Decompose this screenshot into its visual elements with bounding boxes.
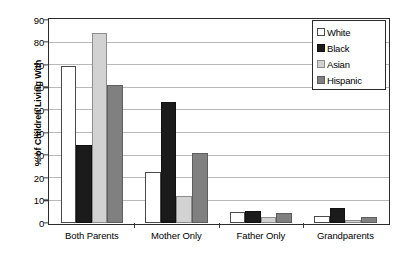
legend-item[interactable]: Black [317,40,385,56]
y-axis-tick-mark [44,155,48,156]
y-axis-tick-mark [44,87,48,88]
legend: WhiteBlackAsianHispanic [312,20,386,90]
legend-item-label: Black [327,43,349,54]
bar-chart: % of Children Living With 01020304050607… [0,0,400,253]
bar[interactable] [230,212,246,223]
y-axis-tick-label: 20 [4,172,44,183]
y-axis-tick-label: 0 [4,218,44,229]
bar[interactable] [161,102,177,223]
y-axis-tick-label: 70 [4,59,44,70]
y-axis-tick-mark [44,222,48,223]
y-axis-tick-label: 30 [4,150,44,161]
y-axis-tick-label: 90 [4,14,44,25]
bar[interactable] [245,211,261,223]
y-axis-tick-mark [44,64,48,65]
bar[interactable] [361,217,377,223]
bar[interactable] [314,216,330,223]
bar-group [230,20,292,223]
bar[interactable] [145,172,161,223]
y-axis-tick-mark [44,132,48,133]
legend-item-label: Asian [327,59,350,70]
bar[interactable] [76,145,92,223]
y-axis-tick-label: 50 [4,105,44,116]
bar[interactable] [107,85,123,223]
y-axis-tick-mark [44,42,48,43]
legend-item[interactable]: White [317,24,385,40]
x-axis-tick-mark [219,223,220,228]
y-axis-tick-mark [44,109,48,110]
bar-group [145,20,207,223]
x-axis-tick-label: Father Only [237,230,286,241]
swatch-hispanic-icon [317,76,325,84]
bar[interactable] [261,217,277,223]
x-axis-tick-label: Mother Only [151,230,202,241]
y-axis-tick-label: 40 [4,127,44,138]
bar[interactable] [192,153,208,223]
y-axis-tick-mark [44,19,48,20]
legend-item-label: White [327,27,350,38]
y-axis-tick-mark [44,177,48,178]
swatch-white-icon [317,28,325,36]
bar[interactable] [176,196,192,223]
swatch-asian-icon [317,60,325,68]
bar[interactable] [276,213,292,223]
bar[interactable] [92,33,108,223]
bar-group [61,20,123,223]
x-axis-tick-mark [303,223,304,228]
legend-item[interactable]: Hispanic [317,72,385,88]
y-axis-tick-label: 10 [4,195,44,206]
y-axis-tick-label: 80 [4,37,44,48]
swatch-black-icon [317,44,325,52]
y-axis-tick-mark [44,200,48,201]
x-axis-tick-label: Both Parents [65,230,119,241]
y-axis-tick-label: 60 [4,82,44,93]
x-axis-tick-label: Grandparents [317,230,374,241]
bar[interactable] [345,220,361,223]
legend-item-label: Hispanic [327,75,362,86]
legend-item[interactable]: Asian [317,56,385,72]
bar[interactable] [61,66,77,223]
x-axis-tick-mark [134,223,135,228]
bar[interactable] [330,208,346,223]
